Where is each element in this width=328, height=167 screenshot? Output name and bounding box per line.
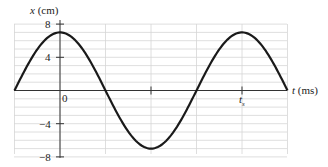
- period-tick-label: ts: [239, 94, 245, 108]
- y-tick-label-neg4: −4: [39, 119, 51, 130]
- origin-label: 0: [62, 93, 68, 104]
- y-tick-label-neg8: −8: [39, 152, 51, 163]
- y-axis-label: x (cm): [30, 5, 58, 16]
- x-axis-label: t (ms): [292, 85, 318, 96]
- y-tick-label-4: 4: [45, 52, 51, 63]
- y-tick-label-8: 8: [45, 19, 51, 30]
